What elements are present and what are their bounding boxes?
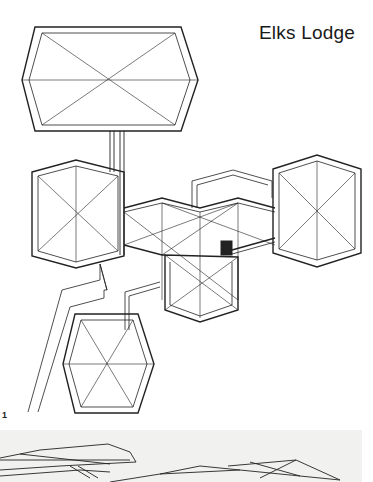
- entrance-walk: [28, 264, 160, 412]
- roof-perspective-photo: [0, 430, 362, 482]
- roof-plan-drawing: [0, 0, 373, 420]
- roof-perspective-sketch: [0, 430, 362, 482]
- right-wing-roof: [273, 155, 361, 267]
- figure-number: 1: [2, 410, 7, 420]
- lower-wing-roof: [63, 314, 154, 413]
- left-wing-roof: [32, 160, 124, 268]
- corridor-upper: [192, 170, 272, 208]
- top-hall-roof: [22, 27, 198, 131]
- central-roof: [124, 198, 275, 322]
- corridor-vertical: [110, 131, 124, 255]
